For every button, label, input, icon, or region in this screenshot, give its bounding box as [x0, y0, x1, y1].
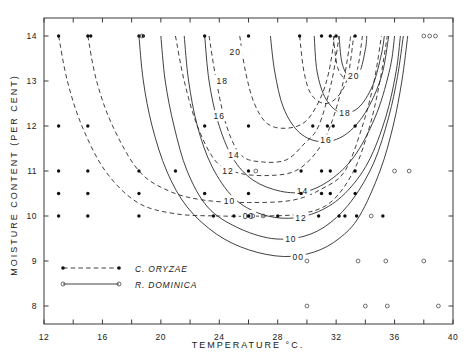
data-point-c-oryzae: [326, 124, 329, 127]
data-point-c-oryzae: [57, 34, 60, 37]
data-point-c-oryzae: [353, 124, 356, 127]
data-point-c-oryzae: [57, 124, 60, 127]
data-point-c-oryzae: [203, 34, 206, 37]
data-point-c-oryzae: [329, 192, 332, 195]
data-point-c-oryzae: [317, 214, 320, 217]
data-point-c-oryzae: [320, 169, 323, 172]
data-point-c-oryzae: [174, 169, 177, 172]
x-tick-label: 12: [39, 332, 49, 342]
x-tick-label: 32: [331, 332, 341, 342]
contour-label-dominica-10: 10: [285, 234, 296, 244]
data-point-c-oryzae: [299, 192, 302, 195]
data-point-c-oryzae: [334, 34, 337, 37]
contour-label-oryzae-20: 20: [230, 47, 241, 57]
data-point-c-oryzae: [57, 169, 60, 172]
data-point-c-oryzae: [203, 124, 206, 127]
y-tick-label: 8: [32, 301, 37, 311]
contour-label-dominica-00: 00: [292, 252, 303, 262]
contour-label-oryzae-10: 10: [224, 196, 235, 206]
x-axis-title: TEMPERATURE °C.: [192, 340, 304, 350]
data-point-c-oryzae: [298, 34, 301, 37]
y-tick-label: 12: [27, 121, 37, 131]
contour-label-dominica-16: 16: [320, 135, 331, 145]
data-point-c-oryzae: [320, 192, 323, 195]
data-point-c-oryzae: [137, 192, 140, 195]
y-axis-title: MOISTURE CONTENT (PER CENT): [9, 74, 19, 275]
contour-label-oryzae-12: 12: [222, 166, 233, 176]
data-point-c-oryzae: [89, 34, 92, 37]
y-tick-label: 13: [27, 76, 37, 86]
data-point-c-oryzae: [232, 214, 235, 217]
x-tick-label: 40: [448, 332, 458, 342]
data-point-c-oryzae: [320, 34, 323, 37]
data-point-c-oryzae: [353, 192, 356, 195]
y-tick-label: 14: [27, 31, 37, 41]
contour-label-dominica-20: 20: [348, 71, 359, 81]
data-point-c-oryzae: [86, 124, 89, 127]
y-tick-label: 9: [32, 256, 37, 266]
data-point-c-oryzae: [353, 34, 356, 37]
contour-label-dominica-18: 18: [339, 108, 350, 118]
chart-figure: 1216202428323640 891011121314 0010121416…: [0, 0, 472, 360]
data-point-c-oryzae: [212, 214, 215, 217]
legend-marker-c-oryzae: [61, 266, 65, 270]
data-point-c-oryzae: [137, 169, 140, 172]
legend-marker-c-oryzae: [117, 266, 121, 270]
data-point-c-oryzae: [57, 214, 60, 217]
data-point-c-oryzae: [299, 169, 302, 172]
data-point-c-oryzae: [355, 214, 358, 217]
data-point-c-oryzae: [247, 192, 250, 195]
data-point-c-oryzae: [329, 34, 332, 37]
data-point-c-oryzae: [137, 214, 140, 217]
contour-plot: 1216202428323640 891011121314 0010121416…: [0, 0, 472, 360]
contour-label-oryzae-18: 18: [216, 76, 227, 86]
y-tick-label: 10: [27, 211, 37, 221]
data-point-c-oryzae: [247, 214, 250, 217]
data-point-c-oryzae: [332, 124, 335, 127]
data-point-c-oryzae: [329, 169, 332, 172]
legend-label-c-oryzae: C. ORYZAE: [135, 264, 188, 274]
x-tick-label: 20: [156, 332, 166, 342]
x-tick-label: 36: [389, 332, 399, 342]
data-point-c-oryzae: [86, 192, 89, 195]
x-tick-label: 16: [97, 332, 107, 342]
data-point-c-oryzae: [311, 124, 314, 127]
data-point-c-oryzae: [337, 214, 340, 217]
contour-label-dominica-14: 14: [297, 186, 308, 196]
data-point-c-oryzae: [276, 214, 279, 217]
data-point-c-oryzae: [247, 169, 250, 172]
data-point-c-oryzae: [203, 192, 206, 195]
data-point-c-oryzae: [381, 214, 384, 217]
contour-label-dominica-12: 12: [295, 213, 306, 223]
contour-label-oryzae-16: 16: [214, 111, 225, 121]
data-point-c-oryzae: [86, 34, 89, 37]
data-point-c-oryzae: [343, 214, 346, 217]
y-tick-label: 11: [27, 166, 37, 176]
data-point-c-oryzae: [353, 169, 356, 172]
data-point-c-oryzae: [247, 124, 250, 127]
data-point-c-oryzae: [86, 169, 89, 172]
contour-label-oryzae-14: 14: [228, 150, 239, 160]
data-point-c-oryzae: [86, 214, 89, 217]
data-point-c-oryzae: [247, 34, 250, 37]
legend-label-r-dominica: R. DOMINICA: [135, 280, 197, 290]
data-point-c-oryzae: [57, 192, 60, 195]
